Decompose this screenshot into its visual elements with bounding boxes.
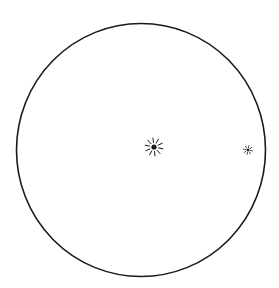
companion-star-icon — [244, 146, 253, 155]
field-of-view-diagram — [0, 0, 279, 288]
star-ray — [145, 145, 149, 146]
star-ray — [146, 149, 150, 151]
star-ray — [158, 143, 162, 145]
star-ray — [153, 138, 154, 142]
star-ray — [150, 151, 152, 155]
star-ray — [249, 152, 250, 154]
star-ray — [158, 148, 162, 149]
star-ray — [244, 151, 246, 152]
telescope-field-drawing — [0, 0, 279, 288]
star-ray — [157, 150, 160, 153]
field-of-view-circle — [17, 24, 266, 277]
star-ray — [155, 151, 156, 155]
star-ray — [246, 146, 247, 148]
star-ray — [148, 140, 151, 143]
primary-star-icon — [145, 138, 163, 156]
star-ray — [250, 148, 252, 149]
star-core — [151, 144, 156, 149]
star-ray — [156, 139, 158, 143]
star-core — [247, 149, 250, 152]
